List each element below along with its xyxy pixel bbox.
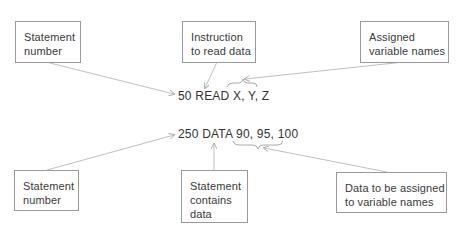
label-box-instruction: Instruction to read data [182, 21, 256, 63]
arrow-instruction-to-read [205, 62, 217, 88]
label-box-data-assigned: Data to be assigned to variable names [336, 172, 447, 213]
arrow-statement-number-to-read [46, 62, 174, 94]
data-statement: 250 DATA 90, 95, 100 [178, 127, 298, 141]
label-line: number [24, 44, 80, 58]
label-line: contains [190, 193, 247, 207]
label-line: Assigned [369, 30, 448, 44]
label-box-statement-number-bottom: Statement number [14, 170, 79, 211]
label-box-statement-number-top: Statement number [15, 21, 81, 63]
label-line: Data to be assigned [345, 181, 446, 195]
label-box-contains-data: Statement contains data [181, 170, 248, 223]
label-line: variable names [369, 44, 448, 58]
label-line: Statement [24, 30, 80, 44]
brace-over-variables [227, 79, 257, 87]
brace-under-values [233, 141, 283, 149]
label-line: data [190, 207, 247, 221]
label-line: number [23, 193, 78, 207]
label-box-assigned-vars: Assigned variable names [360, 21, 449, 63]
read-statement: 50 READ X, Y, Z [178, 89, 269, 103]
label-line: Instruction [191, 30, 255, 44]
label-line: Statement [190, 179, 247, 193]
label-line: to variable names [345, 195, 446, 209]
arrow-statement-number-to-data [47, 135, 174, 170]
arrow-data-assigned-to-brace [264, 148, 387, 172]
label-line: Statement [23, 179, 78, 193]
label-line: to read data [191, 44, 255, 58]
arrow-assigned-vars-to-brace [245, 62, 404, 79]
